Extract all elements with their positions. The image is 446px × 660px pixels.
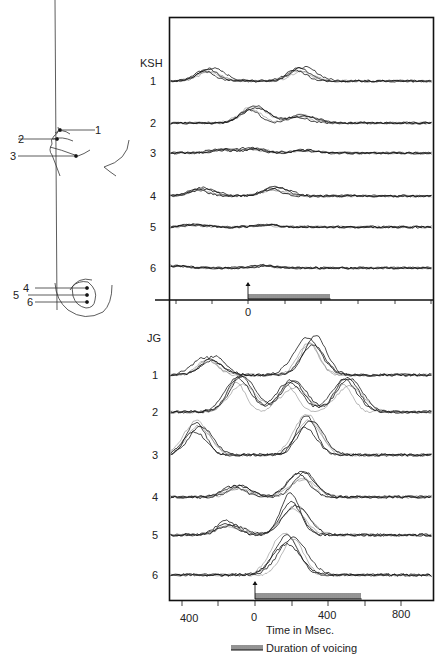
tick-label-400: 400	[318, 609, 336, 621]
channel-label-5: 5	[152, 529, 158, 541]
tick-label-800: 800	[392, 608, 410, 620]
ksh-panel-label: KSH	[140, 57, 163, 69]
jg-panel-label: JG	[147, 332, 161, 344]
jg-emg-traces	[171, 336, 431, 577]
lip-label-1: 1	[95, 124, 101, 136]
channel-label-1: 1	[150, 75, 156, 87]
ksh-voicing-marker	[246, 282, 331, 299]
ksh-zero-label: 0	[245, 306, 251, 318]
emg-figure: 1 2 3 4 5 6 0 KSH JG 123456 123456	[0, 0, 446, 660]
channel-label-2: 2	[152, 406, 158, 418]
channel-label-2: 2	[150, 117, 156, 129]
bottom-time-axis	[182, 601, 401, 606]
tongue-label-5: 5	[13, 289, 19, 301]
lip-label-2: 2	[18, 133, 24, 145]
channel-label-6: 6	[150, 262, 156, 274]
channel-label-4: 4	[150, 190, 156, 202]
channel-label-3: 3	[152, 449, 158, 461]
lip-electrode-diagram	[18, 127, 129, 176]
x-axis-title: Time in Msec.	[266, 624, 334, 636]
lip-label-3: 3	[10, 150, 16, 162]
channel-label-1: 1	[152, 369, 158, 381]
channel-label-6: 6	[152, 569, 158, 581]
tick-label-neg400: 400	[180, 612, 198, 624]
channel-label-4: 4	[152, 491, 158, 503]
voicing-legend-symbol	[231, 645, 263, 650]
tick-label-0: 0	[251, 611, 257, 623]
channel-label-5: 5	[150, 221, 156, 233]
jg-channel-labels: 123456	[152, 369, 158, 581]
tongue-label-4: 4	[23, 282, 29, 294]
ksh-time-axis	[155, 300, 434, 304]
tongue-electrode-diagram	[28, 0, 112, 317]
jg-voicing-marker	[253, 581, 362, 599]
channel-label-3: 3	[150, 147, 156, 159]
tongue-label-6: 6	[27, 296, 33, 308]
ksh-channel-labels: 123456	[150, 75, 156, 274]
legend-label: Duration of voicing	[266, 642, 357, 654]
ksh-emg-traces	[171, 67, 431, 270]
